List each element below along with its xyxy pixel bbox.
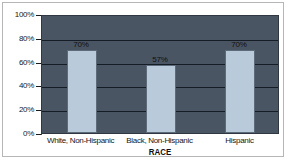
bar-value-label: 70% (61, 40, 101, 49)
chart-figure: 0%20%40%60%80%100% 70%57%70% White, Non-… (2, 2, 284, 157)
y-axis-tick-label: 20% (3, 105, 34, 114)
x-axis-category-label: White, Non-Hispanic (41, 136, 120, 145)
y-axis-tick-label: 60% (3, 58, 34, 67)
bar-value-label: 57% (140, 55, 180, 64)
bar (146, 65, 176, 133)
y-axis-tick-label: 100% (3, 10, 34, 19)
plot-area (41, 15, 279, 134)
y-axis-tick-label: 0% (3, 129, 34, 138)
x-axis-category-label: Hispanic (200, 136, 279, 145)
x-axis-title: RACE (55, 147, 264, 157)
x-axis-category-label: Black, Non-Hispanic (120, 136, 199, 145)
y-axis-tick-label: 80% (3, 34, 34, 43)
bar (67, 50, 97, 133)
y-axis-tick-label: 40% (3, 81, 34, 90)
bar (225, 50, 255, 133)
y-axis-tick (36, 134, 41, 135)
bar-value-label: 70% (219, 40, 259, 49)
